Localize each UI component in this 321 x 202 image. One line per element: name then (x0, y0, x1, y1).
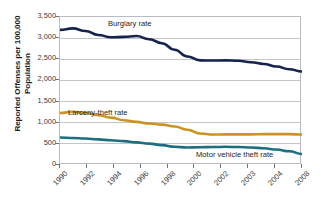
series-label-burglary: Burglary rate (108, 19, 151, 28)
x-axis-tick-mark (247, 164, 248, 168)
y-axis-tick-label: 2,000 (22, 76, 56, 83)
x-axis-tick-label: 1992 (70, 169, 96, 195)
x-axis-tick-mark (220, 164, 221, 168)
x-axis-tick-labels: 1990199219941996199820002002200320042008 (59, 169, 301, 202)
y-axis-tick-label: 1,000 (22, 118, 56, 125)
x-axis-tick-mark (140, 164, 141, 168)
x-axis-tick-mark (301, 164, 302, 168)
x-axis-tick-label: 1998 (151, 169, 177, 195)
x-axis-tick-label: 2003 (231, 169, 257, 195)
x-axis-tick-mark (167, 164, 168, 168)
x-axis-tick-label: 2008 (285, 169, 311, 195)
y-axis-tick-label: 3,500 (22, 12, 56, 19)
x-axis-tick-mark (274, 164, 275, 168)
y-axis-tick-labels: 05001,0001,5002,0002,5003,0003,500 (22, 0, 56, 202)
series-line-burglary (60, 28, 302, 71)
series-label-motor-vehicle-theft: Motor vehicle theft rate (196, 150, 273, 159)
series-label-larceny: Larceny-theft rate (68, 108, 128, 117)
x-axis-tick-mark (113, 164, 114, 168)
y-axis-tick-label: 500 (22, 139, 56, 146)
series-lines (60, 17, 302, 165)
x-axis-tick-label: 2002 (205, 169, 231, 195)
x-axis-tick-mark (59, 164, 60, 168)
y-axis-tick-label: 0 (22, 160, 56, 167)
x-axis-tick-mark (193, 164, 194, 168)
x-axis-tick-label: 2004 (258, 169, 284, 195)
y-axis-tick-label: 2,500 (22, 55, 56, 62)
y-axis-tick-label: 3,000 (22, 33, 56, 40)
x-axis-tick-label: 1994 (97, 169, 123, 195)
x-axis-tick-mark (86, 164, 87, 168)
line-chart: Reported Offenses per 100,000 Population… (0, 0, 321, 202)
plot-area (59, 16, 301, 164)
x-axis-tick-label: 2000 (178, 169, 204, 195)
y-axis-tick-label: 1,500 (22, 97, 56, 104)
x-axis-tick-label: 1996 (124, 169, 150, 195)
